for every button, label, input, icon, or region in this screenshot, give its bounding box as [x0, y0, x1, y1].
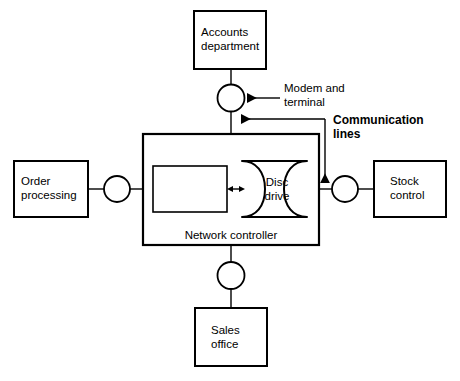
order-processing-label-line1: Order — [21, 175, 51, 187]
accounts-department-label-line1: Accounts — [201, 26, 249, 38]
stock-control-label-line1: Stock — [390, 175, 419, 187]
sales-office-label-line1: Sales — [211, 324, 240, 336]
communication-lines-label-line2: lines — [333, 127, 361, 141]
modem-circle-top — [218, 85, 245, 112]
order-processing-label-line2: processing — [21, 189, 77, 201]
modem-circle-bottom — [218, 262, 245, 289]
communication-lines-label-line1: Communication — [333, 113, 424, 127]
accounts-department-label-line2: department — [201, 40, 260, 52]
sales-office-box — [195, 308, 267, 366]
processor-box — [153, 166, 227, 212]
disc-drive-label-line1: Disc — [266, 176, 289, 188]
network-controller-label: Network controller — [185, 229, 278, 241]
modem-callout-label-line1: Modem and — [284, 82, 345, 94]
modem-callout-label-line2: terminal — [284, 96, 325, 108]
modem-circle-left — [104, 176, 130, 202]
sales-office-label-line2: office — [211, 338, 238, 350]
diagram-canvas: Disc drive Network controller Accounts d… — [0, 0, 460, 381]
stock-control-label-line2: control — [390, 189, 425, 201]
modem-circle-right — [332, 176, 358, 202]
network-diagram: Disc drive Network controller Accounts d… — [0, 0, 460, 381]
disc-drive-label-line2: drive — [265, 190, 290, 202]
